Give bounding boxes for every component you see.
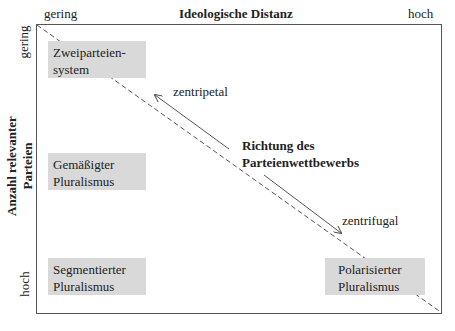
box-zweiparteiensystem: Zweiparteien- system bbox=[48, 41, 146, 78]
zentripetal-label: zentripetal bbox=[173, 84, 228, 100]
x-axis-high-label: hoch bbox=[408, 6, 433, 22]
zentripetal-arrow bbox=[155, 95, 229, 149]
x-axis-low-label: gering bbox=[44, 6, 77, 22]
y-axis-low-label: gering bbox=[16, 22, 32, 62]
y-axis-high-label: hoch bbox=[17, 268, 33, 300]
box-segmentierter-pluralismus: Segmentierter Pluralismus bbox=[48, 258, 146, 295]
box-gemaessigter-pluralismus: Gemäßigter Pluralismus bbox=[48, 153, 146, 190]
center-label: Richtung des Parteienwettbewerbs bbox=[242, 137, 359, 171]
zentrifugal-label: zentrifugal bbox=[342, 213, 398, 229]
x-axis-title: Ideologische Distanz bbox=[179, 6, 293, 22]
box-polarisierter-pluralismus: Polarisierter Pluralismus bbox=[325, 258, 425, 295]
y-axis-title: Anzahl relevanter Parteien bbox=[4, 106, 36, 226]
zentrifugal-arrow bbox=[264, 175, 341, 233]
